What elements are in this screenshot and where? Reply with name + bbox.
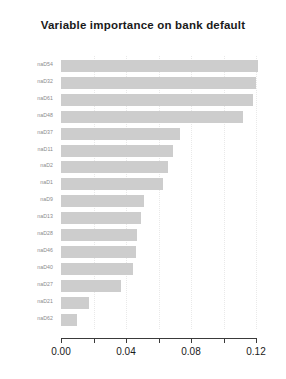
- bar: [61, 246, 136, 258]
- category-label: naD37: [7, 129, 53, 135]
- bar-row: naD28: [0, 227, 286, 244]
- bar-row: naD13: [0, 210, 286, 227]
- x-tick: [159, 338, 160, 343]
- x-tick-label: 0.08: [181, 346, 200, 357]
- category-label: naD21: [7, 298, 53, 304]
- category-label: naD9: [7, 196, 53, 202]
- category-label: naD48: [7, 112, 53, 118]
- category-label: naD27: [7, 281, 53, 287]
- x-tick: [224, 338, 225, 343]
- bar: [61, 128, 180, 140]
- bar-row: naD62: [0, 312, 286, 329]
- bar: [61, 161, 168, 173]
- bar: [61, 297, 89, 309]
- bar-row: naD2: [0, 159, 286, 176]
- x-tick: [191, 338, 192, 343]
- bar-row: naD32: [0, 75, 286, 92]
- x-tick-label: 0.12: [246, 346, 265, 357]
- x-tick: [61, 338, 62, 343]
- bar: [61, 77, 256, 89]
- x-tick: [256, 338, 257, 343]
- bar: [61, 263, 133, 275]
- x-tick-label: 0.04: [116, 346, 135, 357]
- category-label: naD1: [7, 179, 53, 185]
- bar-row: naD40: [0, 261, 286, 278]
- category-label: naD46: [7, 247, 53, 253]
- bar: [61, 280, 121, 292]
- bar: [61, 212, 141, 224]
- category-label: naD28: [7, 230, 53, 236]
- category-label: naD62: [7, 315, 53, 321]
- x-tick: [94, 338, 95, 343]
- category-label: naD54: [7, 61, 53, 67]
- category-label: naD2: [7, 162, 53, 168]
- x-tick: [126, 338, 127, 343]
- plot-area: naD54naD32naD61naD48naD37naD11naD2naD1na…: [0, 0, 286, 379]
- bar: [61, 145, 173, 157]
- bar: [61, 111, 243, 123]
- bar: [61, 229, 137, 241]
- bar-row: naD27: [0, 278, 286, 295]
- category-label: naD11: [7, 146, 53, 152]
- bar: [61, 314, 77, 326]
- bar-row: naD46: [0, 244, 286, 261]
- bar-row: naD61: [0, 92, 286, 109]
- bar-row: naD9: [0, 193, 286, 210]
- bar-row: naD11: [0, 143, 286, 160]
- bar: [61, 195, 144, 207]
- bar-row: naD48: [0, 109, 286, 126]
- bar-row: naD37: [0, 126, 286, 143]
- x-tick-label: 0.00: [51, 346, 70, 357]
- bar: [61, 94, 253, 106]
- category-label: naD32: [7, 78, 53, 84]
- bar-row: naD21: [0, 295, 286, 312]
- variable-importance-chart: Variable importance on bank default naD5…: [0, 0, 286, 379]
- category-label: naD13: [7, 213, 53, 219]
- category-label: naD40: [7, 264, 53, 270]
- bar: [61, 60, 258, 72]
- bar: [61, 178, 163, 190]
- category-label: naD61: [7, 95, 53, 101]
- bar-row: naD54: [0, 58, 286, 75]
- bar-row: naD1: [0, 176, 286, 193]
